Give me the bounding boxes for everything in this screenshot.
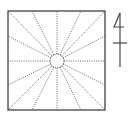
ray-line (60, 11, 81, 55)
ray-line (8, 64, 51, 85)
ray-line (62, 11, 105, 56)
ray-line (63, 36, 105, 58)
north-arrow-symbol (113, 13, 127, 67)
ray-line (8, 66, 52, 110)
ray-line (32, 67, 54, 110)
radial-diagram (0, 0, 132, 115)
ray-line (8, 36, 51, 58)
ray-line (8, 11, 52, 56)
four-glyph-icon (114, 13, 124, 27)
center-circle (50, 54, 64, 68)
ray-line (32, 11, 54, 55)
ray-line (63, 64, 105, 85)
ray-line (60, 67, 81, 110)
ray-line (62, 66, 105, 110)
